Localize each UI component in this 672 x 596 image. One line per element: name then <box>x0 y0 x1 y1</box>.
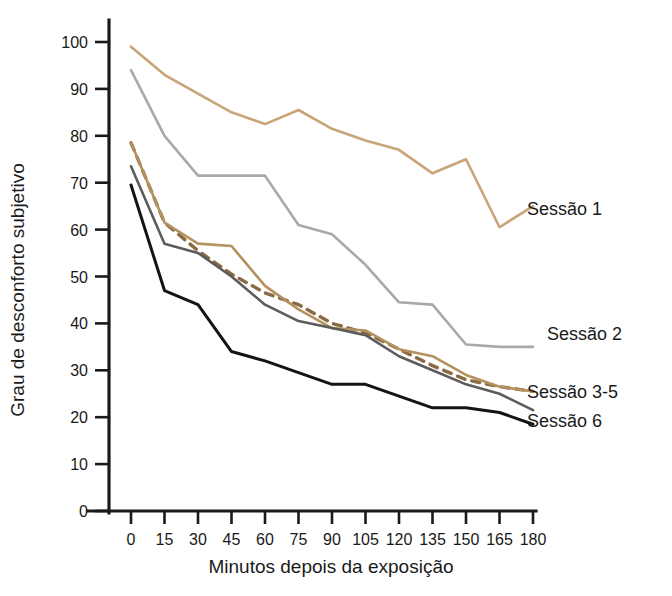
data-series-group <box>131 47 533 425</box>
series-line <box>131 166 533 410</box>
line-chart: 0102030405060708090100 01530456075901051… <box>0 0 672 596</box>
x-tick-label: 0 <box>127 531 136 548</box>
y-tick-label: 90 <box>70 81 88 98</box>
series-label-sessao-1: Sessão 1 <box>527 199 602 219</box>
series-line <box>131 70 533 347</box>
series-line <box>131 143 533 392</box>
series-line <box>131 47 533 228</box>
y-tick-label: 40 <box>70 315 88 332</box>
x-axis-title: Minutos depois da exposição <box>208 556 453 577</box>
y-tick-label: 20 <box>70 409 88 426</box>
x-tick-label: 105 <box>352 531 379 548</box>
y-tick-label: 10 <box>70 456 88 473</box>
x-tick-label: 150 <box>453 531 480 548</box>
y-tick-label: 50 <box>70 269 88 286</box>
series-label-sessao-2: Sessão 2 <box>547 324 622 344</box>
series-label-sessao-6: Sessão 6 <box>527 411 602 431</box>
series-line <box>131 143 533 392</box>
y-axis-title: Grau de desconforto subjetivo <box>7 163 28 417</box>
x-tick-label: 15 <box>156 531 174 548</box>
x-axis-tick-labels: 0153045607590105120135150165180 <box>127 531 547 548</box>
x-tick-label: 165 <box>486 531 513 548</box>
series-line <box>131 185 533 424</box>
y-tick-label: 30 <box>70 362 88 379</box>
x-tick-label: 135 <box>419 531 446 548</box>
x-tick-label: 75 <box>290 531 308 548</box>
x-tick-label: 120 <box>386 531 413 548</box>
x-tick-label: 30 <box>189 531 207 548</box>
y-tick-label: 0 <box>79 503 88 520</box>
x-tick-label: 90 <box>323 531 341 548</box>
y-tick-label: 70 <box>70 175 88 192</box>
x-tick-label: 45 <box>223 531 241 548</box>
y-axis-ticks <box>95 42 109 511</box>
series-label-sessao-3-5: Sessão 3-5 <box>527 382 618 402</box>
y-tick-label: 100 <box>61 34 88 51</box>
x-tick-label: 60 <box>256 531 274 548</box>
y-axis-tick-labels: 0102030405060708090100 <box>61 34 88 520</box>
y-tick-label: 80 <box>70 128 88 145</box>
y-tick-label: 60 <box>70 222 88 239</box>
x-tick-label: 180 <box>520 531 547 548</box>
chart-container: 0102030405060708090100 01530456075901051… <box>0 0 672 596</box>
x-axis-ticks <box>131 511 533 524</box>
